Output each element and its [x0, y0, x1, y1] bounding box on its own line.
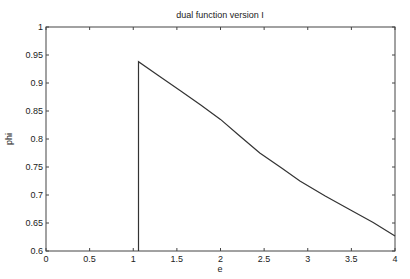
x-tick-label: 2.5: [258, 254, 271, 264]
y-tick-label: 0.7: [30, 190, 43, 200]
x-axis-label: e: [217, 264, 222, 274]
x-tick-label: 2: [218, 254, 223, 264]
y-tick-label: 1: [38, 22, 43, 32]
line-chart: dual function version I 00.511.522.533.5…: [0, 0, 410, 279]
x-tick-label: 0: [43, 254, 48, 264]
y-axis: 0.60.650.70.750.80.850.90.951: [25, 22, 395, 256]
x-tick-label: 1.5: [171, 254, 184, 264]
x-tick-label: 3.5: [345, 254, 358, 264]
y-tick-label: 0.75: [25, 162, 43, 172]
plot-frame: [46, 27, 395, 251]
series-layer: [139, 62, 396, 251]
x-tick-label: 1: [131, 254, 136, 264]
data-line: [139, 62, 396, 251]
x-tick-label: 0.5: [83, 254, 96, 264]
y-tick-label: 0.8: [30, 134, 43, 144]
x-tick-label: 3: [305, 254, 310, 264]
x-axis: 00.511.522.533.54: [43, 27, 397, 264]
y-tick-label: 0.65: [25, 218, 43, 228]
y-tick-label: 0.95: [25, 50, 43, 60]
chart-title: dual function version I: [176, 10, 264, 20]
y-tick-label: 0.85: [25, 106, 43, 116]
y-tick-label: 0.9: [30, 78, 43, 88]
x-tick-label: 4: [392, 254, 397, 264]
y-tick-label: 0.6: [30, 246, 43, 256]
y-axis-label: phi: [4, 133, 14, 145]
